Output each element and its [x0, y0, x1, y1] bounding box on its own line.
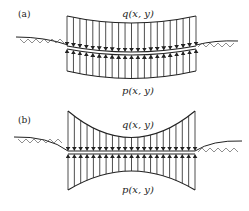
ground-left-b — [14, 137, 68, 151]
load-arrows-a — [67, 16, 196, 79]
ground-right-b — [195, 141, 242, 152]
panel-label-a: (a) — [18, 9, 30, 19]
ground-left-a — [16, 37, 68, 45]
panel-a: (a) q(x, y) p(x, y) — [16, 8, 238, 96]
load-label-p-a: p(x, y) — [122, 85, 154, 96]
load-label-p-b: p(x, y) — [122, 184, 154, 195]
panel-label-b: (b) — [18, 115, 31, 125]
diagram-canvas: (a) q(x, y) p(x, y) (b) q(x, y) p(x, y) — [0, 0, 249, 211]
load-label-q-a: q(x, y) — [122, 8, 154, 19]
ground-right-a — [196, 41, 238, 47]
load-label-q-b: q(x, y) — [122, 119, 154, 130]
panel-b: (b) q(x, y) p(x, y) — [14, 111, 242, 195]
